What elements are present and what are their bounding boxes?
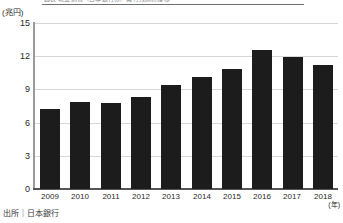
x-axis-unit-label: (年) [328,201,340,209]
bar [161,85,181,189]
x-axis-tick-label: 2011 [96,192,126,201]
clipped-caption: 図表 現金通貨（日本銀行券）発行残高の推移 [44,0,302,3]
x-axis-tick-label: 2009 [35,192,65,201]
bar [222,69,242,189]
bar [192,77,212,189]
x-axis-tick-label: 2017 [277,192,307,201]
bar [252,50,272,189]
y-axis-tick-label: 9 [0,85,30,94]
x-axis-tick-label: 2013 [156,192,186,201]
y-axis-tick-label: 3 [0,152,30,161]
y-axis-unit-label: (兆円) [2,8,23,18]
header-divider [42,4,304,5]
y-axis-tick-label: 15 [0,19,30,28]
y-axis-tick-label: 12 [0,52,30,61]
y-axis-tick-label: 6 [0,119,30,128]
source-note: 出所｜日本銀行 [3,209,59,219]
x-axis-tick-label: 2018 [308,192,338,201]
y-axis-line [33,22,35,190]
bar [101,103,121,189]
x-axis-tick-label: 2014 [187,192,217,201]
bar [283,57,303,189]
x-axis-tick-label: 2015 [217,192,247,201]
x-axis-tick-label: 2012 [126,192,156,201]
x-axis-tick-label: 2016 [247,192,277,201]
y-axis-tick-label: 0 [0,185,30,194]
bar [40,109,60,189]
x-axis-tick-label: 2010 [65,192,95,201]
bar [70,102,90,189]
bar [313,65,333,189]
gridline [35,23,338,24]
bar [131,97,151,189]
